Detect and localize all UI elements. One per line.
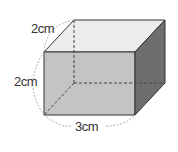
width-label: 3cm	[75, 120, 98, 133]
height-label: 2cm	[14, 75, 37, 88]
depth-label: 2cm	[31, 22, 54, 35]
